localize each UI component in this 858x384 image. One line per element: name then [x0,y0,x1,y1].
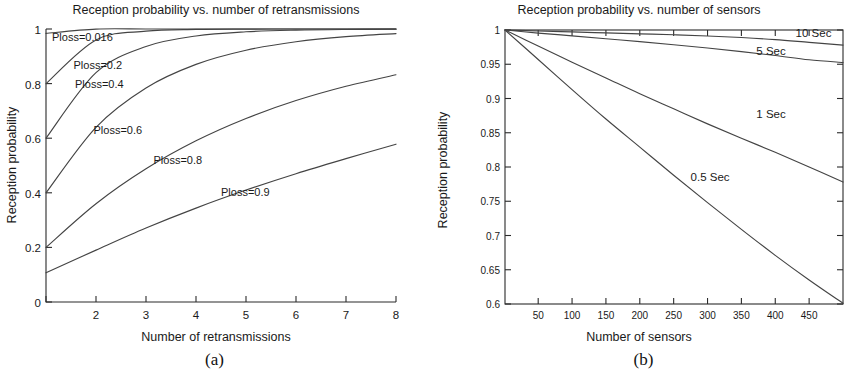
panel-a-ytick-0.4: 0.4 [25,188,42,200]
panel-a-xtick-2: 2 [93,309,99,321]
series-line-3 [505,30,843,303]
panel-b-ytick-0.75: 0.75 [481,196,501,207]
panel-b-ylabel: Reception probability [436,111,450,228]
panel-a-yticks: 1 0.8 0.6 0.4 0.2 0 [25,24,52,309]
panel-b-series-labels: 10 Sec5 Sec1 Sec0.5 Sec [691,27,832,184]
panel-b-curves [505,30,843,303]
panel-b-xticks: 50100150200250300350400450 [533,30,818,321]
panel-a-xlabel: Number of retransmissions [141,330,290,344]
panel-b-xtick-50: 50 [533,310,545,321]
series-line-5 [46,144,396,273]
series-label-3: 0.5 Sec [691,171,730,183]
figure-container: Reception probability vs. number of retr… [0,0,858,384]
panel-a-xticks: 2 3 4 5 6 7 8 [46,296,399,321]
panel-b-xtick-200: 200 [631,310,648,321]
panel-b-ytick-0.85: 0.85 [481,128,501,139]
panel-a-xtick-8: 8 [393,309,399,321]
panel-b-xlabel: Number of sensors [586,330,692,344]
panel-b-caption: (b) [429,350,858,370]
panel-a-ylabel: Reception probability [5,106,19,223]
panel-b-xtick-100: 100 [564,310,581,321]
panel-b-plot: Reception probability vs. number of sens… [429,0,858,350]
series-label-5: Ploss=0.9 [221,186,270,198]
panel-a-xtick-3: 3 [143,309,149,321]
panel-a: Reception probability vs. number of retr… [0,0,429,384]
panel-b: Reception probability vs. number of sens… [429,0,858,384]
panel-b-xtick-400: 400 [767,310,784,321]
panel-a-ytick-0.8: 0.8 [25,79,41,91]
series-line-3 [46,34,396,193]
panel-b-title: Reception probability vs. number of sens… [517,3,760,17]
panel-a-ytick-1: 1 [35,24,41,36]
panel-b-ytick-1: 1 [494,25,500,36]
panel-b-xtick-150: 150 [598,310,615,321]
panel-a-ytick-0: 0 [35,297,41,309]
panel-a-xtick-6: 6 [293,309,299,321]
panel-a-xtick-7: 7 [343,309,349,321]
panel-a-caption: (a) [0,350,429,370]
panel-b-xtick-450: 450 [801,310,818,321]
panel-a-ytick-0.2: 0.2 [25,242,41,254]
series-label-0: 10 Sec [796,27,832,39]
panel-a-ytick-0.6: 0.6 [25,133,41,145]
panel-b-ytick-0.8: 0.8 [486,162,500,173]
series-label-2: Ploss=0.4 [75,78,124,90]
panel-b-ytick-0.7: 0.7 [486,231,500,242]
series-label-1: 5 Sec [756,45,786,57]
panel-b-ytick-0.6: 0.6 [486,299,500,310]
series-label-4: Ploss=0.8 [154,154,203,166]
panel-b-xtick-250: 250 [665,310,682,321]
panel-b-ytick-0.9: 0.9 [486,94,500,105]
panel-b-yticks: 1 0.95 0.9 0.85 0.8 0.75 0.7 0.65 0.6 [481,25,843,310]
panel-b-xtick-300: 300 [699,310,716,321]
panel-b-ytick-0.95: 0.95 [481,59,501,70]
panel-b-xtick-350: 350 [733,310,750,321]
series-label-1: Ploss=0.2 [74,59,123,71]
panel-a-xtick-5: 5 [243,309,249,321]
series-line-2 [505,30,843,182]
panel-b-ytick-0.65: 0.65 [481,265,501,276]
panel-a-xtick-4: 4 [193,309,200,321]
panel-a-plot: Reception probability vs. number of retr… [0,0,429,350]
series-label-0: Ploss=0.016 [52,31,113,43]
series-line-4 [46,75,396,248]
panel-b-axes [505,30,843,304]
panel-a-series-labels: Ploss=0.016Ploss=0.2Ploss=0.4Ploss=0.6Pl… [52,31,270,197]
series-label-2: 1 Sec [756,108,786,120]
panel-a-title: Reception probability vs. number of retr… [73,3,360,17]
series-label-3: Ploss=0.6 [94,124,143,136]
